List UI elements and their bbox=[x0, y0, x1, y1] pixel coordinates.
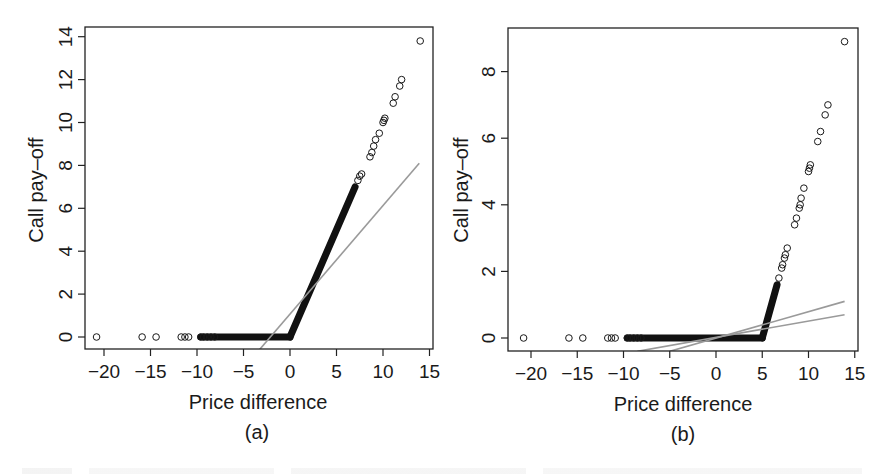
regression-line bbox=[670, 301, 845, 351]
y-tick-label: 12 bbox=[55, 69, 76, 90]
data-point bbox=[372, 136, 379, 143]
y-tick-label: 2 bbox=[478, 266, 499, 277]
caption-cut-off bbox=[22, 468, 862, 474]
panel-label-b: (b) bbox=[671, 423, 695, 445]
y-tick-label: 4 bbox=[478, 199, 499, 210]
data-point bbox=[382, 115, 389, 122]
data-point bbox=[566, 335, 573, 342]
x-tick-label: 0 bbox=[285, 361, 296, 382]
x-tick-label: 0 bbox=[711, 363, 722, 384]
y-tick-label: 4 bbox=[55, 245, 76, 256]
data-point bbox=[798, 195, 805, 202]
plot-area-a bbox=[93, 38, 423, 350]
data-point bbox=[814, 138, 821, 145]
x-axis-label-b: Price difference bbox=[614, 393, 753, 415]
x-tick-label: −15 bbox=[134, 361, 166, 382]
x-tick-label: 5 bbox=[331, 361, 342, 382]
x-tick-label: −5 bbox=[659, 363, 681, 384]
regression-line bbox=[637, 315, 844, 352]
y-tick-label: 0 bbox=[55, 332, 76, 343]
x-axis-b: −20−15−10−5051015 bbox=[515, 351, 865, 384]
data-point bbox=[776, 275, 783, 282]
y-tick-label: 2 bbox=[55, 289, 76, 300]
data-point bbox=[793, 215, 800, 222]
x-tick-label: −10 bbox=[181, 361, 213, 382]
y-tick-label: 14 bbox=[55, 26, 76, 48]
x-tick-label: 15 bbox=[419, 361, 440, 382]
data-point bbox=[825, 102, 832, 109]
x-tick-label: −20 bbox=[88, 361, 120, 382]
data-point bbox=[355, 177, 362, 184]
y-tick-label: 8 bbox=[55, 160, 76, 171]
chart-panel-a: 02468101214 −20−15−10−5051015 Price diff… bbox=[25, 26, 440, 443]
x-tick-label: −15 bbox=[561, 363, 593, 384]
data-point bbox=[822, 112, 829, 119]
data-point bbox=[392, 93, 399, 100]
data-point bbox=[841, 38, 848, 45]
x-tick-label: −5 bbox=[233, 361, 255, 382]
y-axis-b: 02468 bbox=[478, 66, 508, 343]
x-tick-label: 15 bbox=[844, 363, 865, 384]
x-tick-label: 10 bbox=[798, 363, 819, 384]
data-point bbox=[153, 334, 160, 341]
figure: 02468101214 −20−15−10−5051015 Price diff… bbox=[0, 0, 888, 474]
y-tick-label: 8 bbox=[478, 66, 499, 77]
x-tick-label: −10 bbox=[607, 363, 639, 384]
data-point bbox=[93, 334, 100, 341]
y-tick-label: 6 bbox=[478, 133, 499, 144]
data-point bbox=[139, 334, 146, 341]
plot-area-b bbox=[520, 38, 848, 351]
data-point bbox=[520, 335, 527, 342]
data-point bbox=[369, 149, 376, 156]
y-tick-label: 6 bbox=[55, 203, 76, 214]
data-point bbox=[817, 128, 824, 135]
data-point bbox=[398, 76, 405, 83]
data-point bbox=[580, 335, 587, 342]
dense-point-band bbox=[762, 285, 777, 338]
x-axis-label-a: Price difference bbox=[189, 391, 328, 413]
chart-panel-b: 02468 −20−15−10−5051015 Price difference… bbox=[450, 28, 865, 445]
plot-frame-b bbox=[508, 28, 858, 351]
data-point bbox=[367, 154, 374, 161]
data-point bbox=[417, 38, 424, 45]
plot-frame-a bbox=[85, 27, 433, 349]
y-tick-label: 10 bbox=[55, 112, 76, 133]
dense-point-band bbox=[290, 187, 355, 337]
data-point bbox=[396, 83, 403, 90]
regression-line bbox=[259, 163, 419, 350]
x-tick-label: 10 bbox=[372, 361, 393, 382]
x-tick-label: −20 bbox=[515, 363, 547, 384]
x-tick-label: 5 bbox=[757, 363, 768, 384]
y-axis-label-a: Call pay–off bbox=[25, 137, 47, 243]
data-point bbox=[370, 143, 377, 150]
data-point bbox=[791, 221, 798, 228]
x-axis-a: −20−15−10−5051015 bbox=[88, 349, 440, 382]
data-point bbox=[784, 245, 791, 252]
y-axis-a: 02468101214 bbox=[55, 26, 85, 343]
data-point bbox=[376, 130, 383, 137]
y-axis-label-b: Call pay–off bbox=[450, 137, 472, 243]
y-tick-label: 0 bbox=[478, 333, 499, 344]
panel-label-a: (a) bbox=[245, 421, 269, 443]
data-point bbox=[390, 100, 397, 107]
data-point bbox=[801, 185, 808, 192]
